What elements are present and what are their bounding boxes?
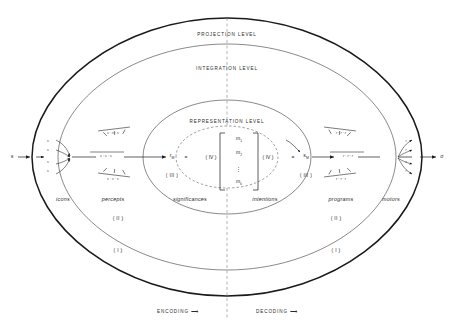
input-stimulus-label: s [11, 154, 14, 159]
diagram-svg [0, 0, 454, 331]
motor-symbol-1: r [405, 140, 406, 144]
equals-left: = [185, 155, 188, 160]
percept-group-bottom: s · s · s [107, 178, 119, 182]
matrix-ellipsis: ⋮ [236, 167, 242, 172]
icon-symbol-4: s [47, 170, 49, 174]
term-label-icons: icons [56, 197, 70, 202]
level-label-integration: INTEGRATION LEVEL [196, 67, 258, 72]
region-marker-one-left: ( I ) [114, 248, 123, 253]
equals-right: = [292, 155, 295, 160]
percept-group-top: s · s · s [107, 132, 119, 136]
motor-symbol-3: r [405, 161, 406, 165]
central-s-sub-m: sM [303, 153, 308, 160]
operator-right: ( IV ) [263, 155, 274, 160]
term-label-intentions: intentions [252, 197, 278, 202]
flow-label-encoding: ENCODING ⟶ [157, 310, 199, 315]
term-label-significances: significances [173, 197, 207, 202]
matrix-entry-m1: m1 [236, 136, 242, 143]
flow-label-decoding: DECODING ⟶ [256, 310, 298, 315]
level-label-representation: REPRESENTATION LEVEL [189, 120, 264, 125]
matrix-entry-m2: m2 [236, 150, 242, 157]
feedback-arc-arrow [286, 140, 300, 152]
level-label-projection: PROJECTION LEVEL [197, 33, 257, 38]
term-label-programs: programs [329, 197, 354, 202]
program-group-bottom: r · r · r [336, 178, 346, 182]
term-label-motors: motors [382, 197, 400, 202]
region-marker-one-right: ( I ) [332, 248, 341, 253]
region-marker-two-right: ( II ) [331, 216, 342, 221]
program-group-middle: r · r · r [343, 155, 353, 159]
term-label-percepts: percepts [102, 197, 125, 202]
motor-symbol-4: r [405, 170, 406, 174]
roman-left: ( III ) [166, 173, 178, 178]
operator-left: ( IV ) [206, 155, 217, 160]
percept-group-middle: s · s · s [100, 155, 112, 159]
motor-symbol-2: r [405, 149, 406, 153]
roman-right: ( III ) [300, 173, 312, 178]
icon-symbol-2: s [47, 149, 49, 153]
matrix-entry-mk: mk [236, 179, 242, 186]
output-response-label: σ [440, 154, 443, 159]
central-r-sub-m: rM [170, 153, 175, 160]
figure-canvas: PROJECTION LEVEL INTEGRATION LEVEL REPRE… [0, 0, 454, 331]
icon-symbol-1: s [47, 140, 49, 144]
program-group-top: r · r · r [336, 132, 346, 136]
region-marker-two-left: ( II ) [113, 216, 124, 221]
icon-symbol-3: s [47, 161, 49, 165]
